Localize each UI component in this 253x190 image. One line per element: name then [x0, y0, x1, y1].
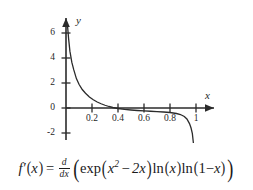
eq-lhs-close-paren: ) [38, 160, 42, 175]
x-axis-arrow-icon [205, 104, 214, 112]
eq-lhs-open-paren: ( [26, 160, 30, 175]
eq-exp-close-paren: ) [147, 160, 152, 177]
eq-ln1-open-paren: ( [164, 160, 168, 175]
eq-ln2-minus: − [206, 161, 214, 176]
plot-svg [0, 0, 253, 148]
eq-exp-open-paren: ( [102, 160, 107, 177]
eq-prime: ′ [22, 161, 25, 176]
eq-ln1-close-paren: ) [177, 160, 181, 175]
eq-ln1-arg: x [169, 161, 175, 176]
plot-area: 6 4 2 0 -2 0.2 0.4 0.6 0.8 1 y x [0, 0, 253, 148]
equation-caption: f′(x)=ddx(exp(x2−2x)ln(x)ln(1−x)) [0, 150, 253, 186]
eq-deriv-denominator: dx [59, 168, 70, 179]
eq-ln2-open-paren: ( [194, 160, 198, 175]
eq-exp-minus: − [121, 161, 129, 176]
eq-exp-term: 2x [132, 161, 146, 176]
x-tick-label-0-2: 0.2 [79, 114, 105, 124]
y-tick-label-2: 2 [39, 78, 55, 88]
y-axis-label: y [76, 15, 81, 26]
x-axis-label: x [205, 90, 210, 101]
y-tick-label-4: 4 [39, 53, 55, 63]
y-tick-label-6: 6 [39, 28, 55, 38]
eq-ln2-name: ln [182, 161, 193, 176]
eq-ln2-var: x [214, 161, 220, 176]
eq-exp-name: exp [80, 161, 101, 176]
x-tick-label-0-4: 0.4 [105, 114, 131, 124]
y-tick-label-minus-2: -2 [36, 128, 55, 138]
eq-equals: = [46, 161, 54, 176]
function-curve [68, 26, 194, 143]
eq-derivative-operator: ddx [59, 157, 70, 178]
eq-deriv-numerator: d [61, 157, 68, 167]
eq-ln1-name: ln [152, 161, 163, 176]
eq-outer-close-paren: ) [227, 159, 233, 179]
eq-lhs-var: x [31, 161, 37, 176]
equation-expression: f′(x)=ddx(exp(x2−2x)ln(x)ln(1−x)) [18, 157, 234, 178]
eq-ln2-one: 1 [199, 161, 206, 176]
y-axis-arrow-icon [62, 18, 70, 27]
x-tick-label-1: 1 [183, 114, 209, 124]
figure-container: 6 4 2 0 -2 0.2 0.4 0.6 0.8 1 y x f′(x)=d… [0, 0, 253, 190]
x-tick-label-0-6: 0.6 [131, 114, 157, 124]
eq-exp-power: 2 [114, 159, 119, 169]
x-tick-label-0-8: 0.8 [157, 114, 183, 124]
eq-ln2-close-paren: ) [221, 160, 225, 175]
y-tick-label-0: 0 [39, 103, 55, 113]
eq-outer-open-paren: ( [73, 159, 79, 179]
